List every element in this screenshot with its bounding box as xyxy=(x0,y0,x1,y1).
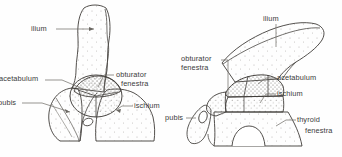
label-thyroid-fenestra-right-line2: fenestra xyxy=(305,127,333,136)
anatomy-figure: ilium acetabulum obturator fenestra pubi… xyxy=(0,0,342,157)
label-acetabulum-right: acetabulum xyxy=(277,74,316,83)
right-pubis-ramus xyxy=(187,105,211,143)
label-ilium-left: ilium xyxy=(31,25,47,34)
label-thyroid-fenestra-right-line1: thyroid xyxy=(297,116,320,125)
label-ilium-right: ilium xyxy=(263,15,279,24)
label-ischium-right: ischium xyxy=(277,90,303,99)
label-obturator-fenestra-right-line2: fenestra xyxy=(181,64,209,73)
left-small-foramen xyxy=(82,117,94,127)
right-plate-foot xyxy=(208,134,214,146)
right-ischium-shape xyxy=(226,96,284,112)
label-pubis-left: pubis xyxy=(0,99,16,108)
label-obturator-fenestra-left-line2: fenestra xyxy=(121,80,149,89)
right-pelvis-group xyxy=(186,23,324,146)
label-ischium-left: ischium xyxy=(134,102,160,111)
label-pubis-right: pubis xyxy=(165,114,183,123)
label-acetabulum-left: acetabulum xyxy=(0,75,38,84)
